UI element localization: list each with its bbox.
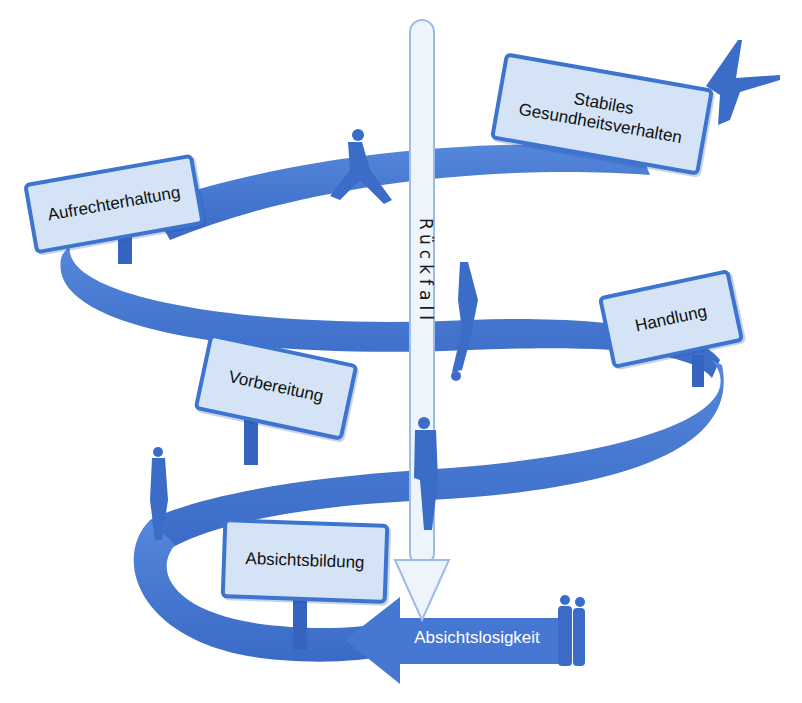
stage-sign-absichtsbildung: Absichtsbildung <box>221 518 390 604</box>
stage-label: Handlung <box>633 302 708 336</box>
person-jumping-icon <box>706 40 780 125</box>
stage-label: Vorbereitung <box>227 367 325 406</box>
stage-label: Absichtsbildung <box>245 549 365 573</box>
stages-of-change-diagram: Aufrechterhaltung Stabiles Gesundheitsve… <box>0 0 802 703</box>
sign-post <box>118 236 132 264</box>
sign-post <box>692 355 704 387</box>
stage-label-absichtslosigkeit: Absichtslosigkeit <box>392 628 562 648</box>
two-people-standing-icon <box>558 595 585 666</box>
stage-label: Aufrechterhaltung <box>46 183 182 226</box>
spiral-ribbon-top <box>150 145 650 240</box>
relapse-label: Rückfall <box>408 218 436 368</box>
